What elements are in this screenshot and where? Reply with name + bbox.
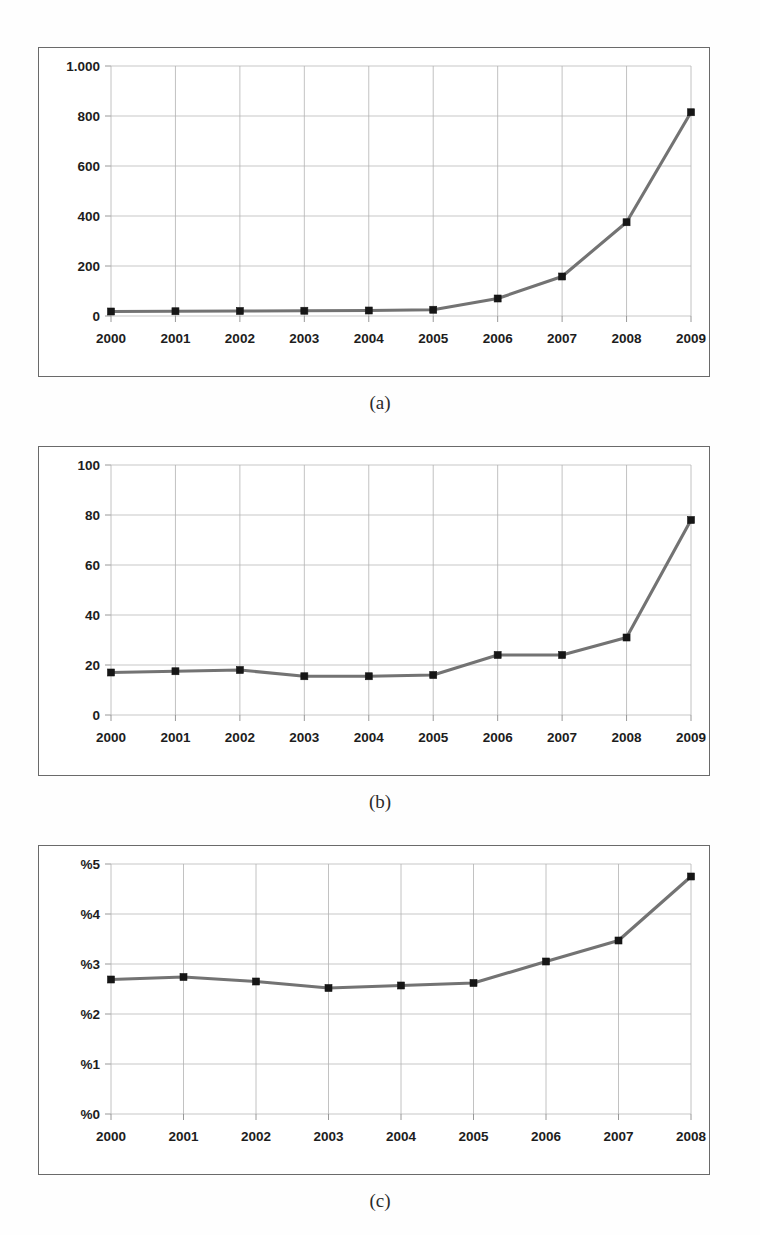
x-axis-tick-label: 2006 [483,730,514,745]
data-point-marker [470,980,477,987]
data-point-marker [253,978,260,985]
data-point-marker [559,652,566,659]
caption-b: (b) [0,791,760,813]
x-axis-tick-label: 2002 [225,331,255,346]
y-axis-tick-label: 200 [77,259,100,274]
x-axis-tick-label: 2000 [96,331,126,346]
x-axis-tick-label: 2005 [418,331,449,346]
data-point-marker [430,306,437,313]
data-point-marker [108,976,115,983]
y-axis-tick-label: 1.000 [66,59,100,74]
y-axis-tick-label: 100 [77,458,100,473]
data-point-marker [325,985,332,992]
x-axis-tick-label: 2007 [547,331,577,346]
series-line [111,520,691,676]
x-axis-tick-label: 2004 [354,730,385,745]
chart-a-frame: 02004006008001.0002000200120022003200420… [38,47,710,377]
data-point-marker [365,673,372,680]
y-axis-tick-label: %2 [80,1007,100,1022]
y-axis-tick-label: %3 [80,957,100,972]
x-axis-tick-label: 2006 [531,1129,562,1144]
x-axis-tick-label: 2009 [676,331,706,346]
x-axis-tick-label: 2001 [160,730,191,745]
data-point-marker [108,669,115,676]
x-axis-tick-label: 2004 [354,331,385,346]
data-point-marker [543,958,550,965]
x-axis-tick-label: 2001 [168,1129,199,1144]
y-axis-tick-label: 80 [85,508,100,523]
x-axis-tick-label: 2005 [418,730,449,745]
data-point-marker [615,937,622,944]
chart-c-frame: %0%1%2%3%4%52000200120022003200420052006… [38,845,710,1175]
series-line [111,112,691,311]
y-axis-tick-label: 0 [92,708,100,723]
document-page: 02004006008001.0002000200120022003200420… [0,0,760,1235]
chart-b-plot: 0204060801002000200120022003200420052006… [39,447,709,775]
chart-a-plot: 02004006008001.0002000200120022003200420… [39,48,709,376]
data-point-marker [301,307,308,314]
x-axis-tick-label: 2001 [160,331,191,346]
x-axis-tick-label: 2002 [241,1129,271,1144]
data-point-marker [623,219,630,226]
y-axis-tick-label: %5 [80,857,100,872]
x-axis-tick-label: 2009 [676,730,706,745]
data-point-marker [172,668,179,675]
data-point-marker [180,974,187,981]
data-point-marker [236,667,243,674]
data-point-marker [301,673,308,680]
x-axis-tick-label: 2007 [603,1129,633,1144]
caption-c: (c) [0,1190,760,1212]
data-point-marker [430,672,437,679]
y-axis-tick-label: %4 [80,907,100,922]
data-point-marker [494,295,501,302]
y-axis-tick-label: 40 [85,608,100,623]
y-axis-tick-label: 60 [85,558,100,573]
x-axis-tick-label: 2008 [612,331,643,346]
y-axis-tick-label: 800 [77,109,100,124]
data-point-marker [688,873,695,880]
x-axis-tick-label: 2005 [458,1129,489,1144]
x-axis-tick-label: 2004 [386,1129,417,1144]
x-axis-tick-label: 2003 [313,1129,344,1144]
x-axis-tick-label: 2003 [289,331,320,346]
data-point-marker [172,308,179,315]
data-point-marker [688,109,695,116]
y-axis-tick-label: %1 [80,1057,100,1072]
data-point-marker [688,517,695,524]
data-point-marker [494,652,501,659]
x-axis-tick-label: 2002 [225,730,255,745]
data-point-marker [236,308,243,315]
y-axis-tick-label: 20 [85,658,100,673]
x-axis-tick-label: 2008 [612,730,643,745]
data-point-marker [623,634,630,641]
x-axis-tick-label: 2007 [547,730,577,745]
chart-c-plot: %0%1%2%3%4%52000200120022003200420052006… [39,846,709,1174]
y-axis-tick-label: %0 [80,1107,100,1122]
y-axis-tick-label: 0 [92,309,100,324]
data-point-marker [365,307,372,314]
x-axis-tick-label: 2008 [676,1129,707,1144]
data-point-marker [108,308,115,315]
x-axis-tick-label: 2000 [96,730,126,745]
x-axis-tick-label: 2003 [289,730,320,745]
data-point-marker [398,982,405,989]
chart-b-frame: 0204060801002000200120022003200420052006… [38,446,710,776]
caption-a: (a) [0,392,760,414]
x-axis-tick-label: 2006 [483,331,514,346]
data-point-marker [559,273,566,280]
y-axis-tick-label: 600 [77,159,100,174]
x-axis-tick-label: 2000 [96,1129,126,1144]
y-axis-tick-label: 400 [77,209,100,224]
